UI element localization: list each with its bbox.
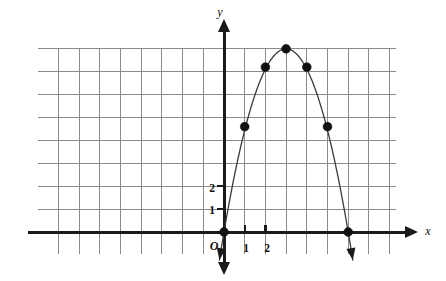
y-tick-label-1: 1 — [209, 204, 215, 216]
data-point-4 — [302, 63, 311, 72]
y-axis-arrow-down-icon — [218, 262, 230, 275]
data-point-5 — [323, 122, 332, 131]
data-point-0 — [220, 228, 229, 237]
x-tick-label-2: 2 — [264, 242, 270, 254]
coordinate-plane-svg: y x O 1 2 1 2 — [0, 0, 446, 281]
data-point-2 — [261, 63, 270, 72]
origin-label: O — [210, 239, 219, 253]
data-point-6 — [344, 228, 353, 237]
graph-figure: y x O 1 2 1 2 — [0, 0, 446, 281]
data-point-1 — [240, 122, 249, 131]
x-axis-arrow-icon — [405, 226, 418, 238]
y-tick-label-2: 2 — [209, 182, 215, 194]
grid-horizontal-lines — [38, 49, 396, 232]
x-tick-label-1: 1 — [243, 242, 249, 254]
x-axis-label: x — [424, 224, 431, 238]
data-point-3 — [282, 44, 291, 53]
y-axis-arrow-up-icon — [218, 19, 230, 32]
y-axis-label: y — [216, 5, 223, 19]
